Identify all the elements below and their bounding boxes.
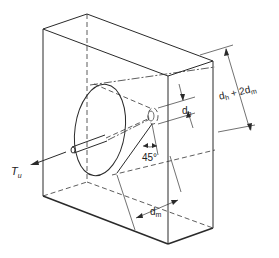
diagram-canvas: Tu dh dh + 2dm 45° dm <box>0 0 279 258</box>
cone-base-label: dh + 2dm <box>218 82 258 102</box>
cone-angle-marker <box>143 124 158 155</box>
tension-label: Tu <box>11 165 22 179</box>
head-diameter-label: dh <box>182 105 192 117</box>
head-diameter-dimension <box>158 84 195 128</box>
angle-label: 45° <box>142 152 157 163</box>
embedment-dimension <box>117 156 181 230</box>
anchor-pullout-diagram: Tu dh dh + 2dm 45° dm <box>0 0 279 258</box>
anchor-head <box>148 108 158 124</box>
tension-arrow <box>30 152 66 165</box>
anchor-rod <box>71 118 150 153</box>
